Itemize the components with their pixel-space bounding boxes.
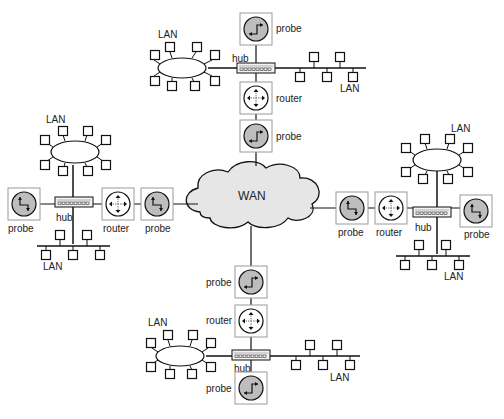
probe-icon [240,13,272,45]
probe-icon [460,195,492,227]
hub-icon [237,63,275,73]
probe-label: probe [8,223,34,234]
ring-lan: LAN [41,114,111,176]
lan-label: LAN [148,317,167,328]
probe-label: probe [276,23,302,34]
hub-label: hub [232,53,249,64]
probe-label: probe [145,223,171,234]
lan-label: LAN [330,372,349,383]
probe-label: probe [206,277,232,288]
network-diagram: WAN probe hub router probe LAN [0,0,504,419]
lan-label: LAN [444,271,463,282]
probe-label: probe [206,383,232,394]
bus-lan: LAN [396,241,470,283]
probe-icon [240,120,272,152]
probe-label: probe [276,131,302,142]
router-icon [375,192,407,224]
probe-label: probe [464,229,490,240]
lan-label: LAN [43,261,62,272]
hub-icon [413,207,451,217]
lan-label: LAN [451,123,470,134]
router-label: router [206,315,233,326]
router-icon [102,188,134,220]
router-label: router [276,93,303,104]
router-icon [235,305,267,337]
branch-bottom: probe router hub probe LAN [147,226,361,404]
branch-right: LAN probe router hub probe [310,123,492,282]
probe-icon [8,188,40,220]
router-label: router [103,223,130,234]
router-label: router [376,227,403,238]
lan-label: LAN [158,29,177,40]
probe-icon [235,266,267,298]
hub-icon [55,197,93,207]
ring-lan: LAN [147,317,216,379]
wan-cloud: WAN [186,162,319,228]
wan-label: WAN [238,189,266,203]
branch-left: LAN probe hub router probe [8,114,198,272]
bus-lan: LAN [292,341,355,384]
hub-label: hub [415,222,432,233]
probe-label: probe [338,227,364,238]
probe-icon [141,188,173,220]
hub-label: hub [56,212,73,223]
hub-icon [232,350,270,360]
ring-lan: LAN [151,29,220,91]
branch-top: probe hub router probe LAN [151,13,367,166]
probe-icon [336,192,368,224]
probe-icon [235,372,267,404]
lan-label: LAN [46,114,65,125]
router-icon [240,82,272,114]
lan-label: LAN [340,83,359,94]
bus-lan: LAN [296,53,360,95]
